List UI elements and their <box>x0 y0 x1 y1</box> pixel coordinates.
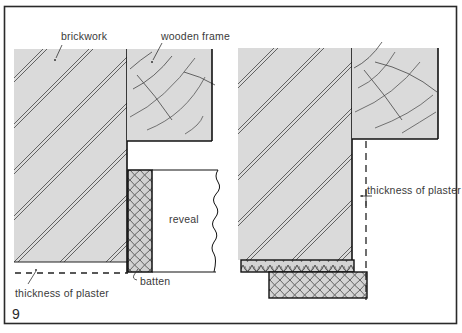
left-batten <box>128 170 152 272</box>
label-batten: batten <box>140 276 170 287</box>
diagram-canvas <box>0 0 462 333</box>
right-bottom-board <box>269 272 367 298</box>
figure-number: 9 <box>12 307 20 321</box>
left-wooden-frame <box>127 49 215 141</box>
label-thickness-of-plaster-right: thickness of plaster <box>367 185 461 196</box>
diagram-figure: brickwork wooden frame reveal batten thi… <box>0 0 462 333</box>
label-wooden-frame: wooden frame <box>161 31 230 42</box>
right-detail <box>238 42 438 300</box>
label-reveal: reveal <box>169 214 199 225</box>
left-brickwork <box>14 49 127 273</box>
label-brickwork: brickwork <box>61 31 107 42</box>
label-thickness-of-plaster-left: thickness of plaster <box>15 288 109 299</box>
right-wooden-frame <box>352 42 438 139</box>
right-batten-strip <box>241 260 354 272</box>
left-detail <box>14 43 220 284</box>
right-brickwork <box>238 48 352 262</box>
